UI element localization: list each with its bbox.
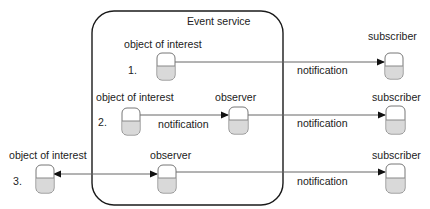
row3-object-label: object of interest [9, 149, 87, 161]
node-row1-object-of-interest [157, 53, 175, 80]
row2-observer-label: observer [215, 91, 256, 103]
row2-edge2-label: notification [297, 117, 348, 129]
row1-subscriber-label: subscriber [368, 30, 417, 42]
node-row3-observer [158, 165, 176, 193]
event-service-title: Event service [187, 15, 251, 27]
row1-number: 1. [128, 64, 137, 76]
row2-subscriber-label: subscriber [372, 91, 421, 103]
row1-edge-label: notification [297, 64, 348, 76]
node-row3-object-of-interest [36, 165, 54, 193]
row1-object-label: object of interest [124, 38, 202, 50]
node-row2-observer [229, 107, 248, 134]
event-service-diagram [0, 0, 430, 209]
node-row1-subscriber [385, 53, 403, 79]
node-row2-subscriber [386, 106, 405, 134]
row3-subscriber-label: subscriber [372, 149, 421, 161]
row3-edge2-label: notification [297, 175, 348, 187]
row2-edge1-label: notification [158, 118, 209, 130]
row2-number: 2. [98, 116, 107, 128]
row3-observer-label: observer [150, 149, 191, 161]
row2-object-label: object of interest [96, 91, 174, 103]
node-row3-subscriber [386, 164, 405, 193]
node-row2-object-of-interest [122, 108, 140, 135]
row3-number: 3. [13, 175, 22, 187]
